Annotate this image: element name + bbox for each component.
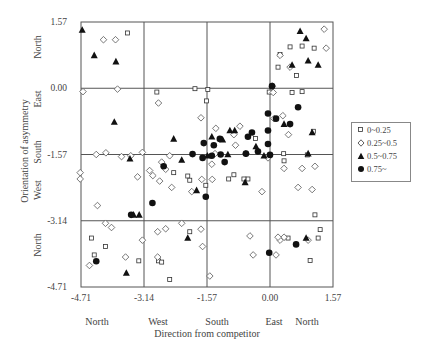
data-point-square: [288, 45, 292, 49]
legend-item: 0.25~0.5: [352, 136, 410, 149]
y-tick-labels: 1.570.00-1.57-3.14-4.71: [47, 17, 67, 292]
data-point-diamond: [86, 262, 93, 269]
data-point-triangle: [79, 26, 86, 33]
data-point-diamond: [309, 186, 316, 193]
data-point-square: [246, 177, 250, 181]
data-point-triangle: [297, 27, 304, 34]
data-point-circle: [217, 136, 224, 143]
data-point-square: [294, 74, 298, 78]
x-tick-labels: -4.71-3.14-1.570.001.57: [71, 293, 341, 303]
data-point-diamond: [199, 243, 206, 250]
data-point-circle: [265, 110, 272, 117]
legend-label: 0.5~0.75: [367, 151, 397, 161]
legend-label: 0.75~: [367, 164, 386, 174]
y-direction-labels: NorthEastSouthWestNorth: [32, 35, 43, 256]
data-point-square: [89, 236, 93, 240]
legend-item: 0~0.25: [352, 123, 410, 136]
diamond-marker-icon: [357, 139, 365, 147]
data-point-triangle: [112, 58, 119, 65]
data-point-diamond: [237, 123, 244, 130]
data-point-diamond: [112, 36, 119, 43]
data-point-triangle: [315, 61, 322, 68]
data-point-square: [103, 244, 107, 248]
data-point-diamond: [321, 26, 328, 33]
data-point-square: [313, 213, 317, 217]
data-points: [77, 26, 330, 282]
data-point-diamond: [198, 114, 205, 121]
y-direction-label: North: [32, 35, 43, 58]
data-point-triangle: [170, 135, 177, 142]
data-point-circle: [269, 83, 276, 90]
data-point-diamond: [280, 112, 287, 119]
data-point-diamond: [156, 178, 163, 185]
data-point-diamond: [139, 237, 146, 244]
data-point-circle: [243, 150, 250, 157]
data-point-diamond: [213, 125, 220, 132]
data-point-circle: [200, 140, 207, 147]
data-point-diamond: [168, 184, 175, 191]
x-direction-labels: NorthWestSouthEastNorth: [85, 316, 318, 327]
data-point-circle: [209, 152, 216, 159]
y-axis-label: Orientation of asymmetry: [19, 99, 30, 202]
data-point-triangle: [193, 187, 200, 194]
data-point-triangle: [305, 57, 312, 64]
data-point-diamond: [209, 161, 216, 168]
data-point-triangle: [281, 120, 288, 127]
data-point-diamond: [103, 150, 110, 157]
x-tick-label: 1.57: [325, 293, 342, 303]
data-point-circle: [266, 250, 273, 257]
data-point-diamond: [295, 184, 302, 191]
data-point-circle: [160, 163, 167, 170]
data-point-diamond: [162, 225, 169, 232]
data-point-diamond: [108, 224, 115, 231]
data-point-square: [206, 88, 210, 92]
x-tick-label: -4.71: [71, 293, 91, 303]
data-point-diamond: [154, 228, 161, 235]
legend: 0~0.25 0.25~0.5 0.5~0.75 0.75~: [351, 122, 411, 182]
data-point-circle: [249, 129, 256, 136]
x-tick-label: -1.57: [197, 293, 217, 303]
data-point-square: [168, 277, 172, 281]
data-point-square: [227, 177, 231, 181]
data-point-diamond: [155, 100, 162, 107]
y-direction-label: North: [32, 233, 43, 256]
data-point-square: [300, 90, 304, 94]
data-point-circle: [189, 151, 196, 158]
data-point-circle: [267, 152, 274, 159]
data-point-square: [312, 46, 316, 50]
data-point-square: [205, 99, 209, 103]
data-point-circle: [273, 115, 280, 122]
y-tick-label: -4.71: [47, 282, 67, 292]
data-point-triangle: [184, 234, 191, 241]
data-point-square: [188, 178, 192, 182]
data-point-square: [126, 31, 130, 35]
data-point-circle: [128, 212, 135, 219]
data-point-square: [254, 136, 258, 140]
data-point-diamond: [114, 86, 121, 93]
data-point-square: [188, 230, 192, 234]
data-point-diamond: [93, 151, 100, 158]
x-direction-label: North: [295, 316, 318, 327]
data-point-diamond: [247, 233, 254, 240]
y-tick-label: 1.57: [50, 17, 67, 27]
data-point-square: [172, 171, 176, 175]
x-direction-label: North: [85, 316, 108, 327]
data-point-square: [308, 258, 312, 262]
x-tick-label: 0.00: [262, 293, 279, 303]
y-direction-label: East: [32, 90, 43, 107]
triangle-marker-icon: [357, 152, 365, 160]
data-point-triangle: [208, 133, 215, 140]
data-point-diamond: [259, 188, 266, 195]
data-point-square: [282, 159, 286, 163]
data-point-diamond: [209, 176, 216, 183]
data-point-square: [318, 228, 322, 232]
legend-item: 0.75~: [352, 162, 410, 175]
y-tick-label: -3.14: [47, 216, 67, 226]
data-point-triangle: [111, 118, 118, 125]
data-point-diamond: [198, 176, 205, 183]
data-point-square: [155, 90, 159, 94]
data-point-diamond: [122, 254, 129, 261]
data-point-diamond: [273, 252, 280, 259]
x-tick-label: -3.14: [134, 293, 154, 303]
data-point-square: [282, 152, 286, 156]
